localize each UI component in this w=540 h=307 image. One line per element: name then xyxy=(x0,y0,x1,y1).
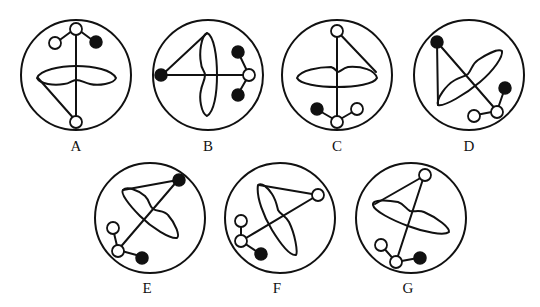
option-d[interactable]: D xyxy=(414,20,524,154)
option-c-diagonal xyxy=(337,31,376,72)
filled-node-icon xyxy=(255,248,267,260)
option-f-diagonal xyxy=(241,195,318,241)
option-d-diagonal xyxy=(437,42,497,111)
open-node-icon xyxy=(49,37,61,49)
option-d-left-edge xyxy=(437,42,438,105)
option-f-label: F xyxy=(273,280,281,296)
option-d-ellipse xyxy=(438,50,502,105)
open-node-icon xyxy=(331,116,343,128)
filled-node-icon xyxy=(414,252,426,264)
option-b[interactable]: B xyxy=(153,20,263,154)
open-node-icon xyxy=(243,69,255,81)
open-node-icon xyxy=(70,116,82,128)
filled-node-icon xyxy=(155,69,167,81)
filled-node-icon xyxy=(136,252,148,264)
option-d-label: D xyxy=(464,138,475,154)
filled-node-icon xyxy=(232,89,244,101)
option-g[interactable]: G xyxy=(356,163,466,296)
filled-node-icon xyxy=(90,36,102,48)
open-node-icon xyxy=(112,245,124,257)
option-c[interactable]: C xyxy=(282,20,392,154)
open-node-icon xyxy=(468,110,480,122)
open-node-icon xyxy=(331,25,343,37)
option-b-label: B xyxy=(203,138,213,154)
option-e[interactable]: E xyxy=(95,163,205,296)
open-node-icon xyxy=(419,169,431,181)
option-f[interactable]: F xyxy=(225,163,335,296)
filled-node-icon xyxy=(173,174,185,186)
open-node-icon xyxy=(107,222,119,234)
option-a-label: A xyxy=(71,138,82,154)
open-node-icon xyxy=(390,256,402,268)
open-node-icon xyxy=(235,215,247,227)
option-a[interactable]: A xyxy=(21,20,131,154)
open-node-icon xyxy=(70,23,82,35)
option-g-label: G xyxy=(403,280,414,296)
open-node-icon xyxy=(491,106,503,118)
open-node-icon xyxy=(312,189,324,201)
option-e-frame xyxy=(95,163,205,273)
filled-node-icon xyxy=(431,36,443,48)
option-e-label: E xyxy=(142,280,151,296)
filled-node-icon xyxy=(311,103,323,115)
filled-node-icon xyxy=(499,82,511,94)
figure-canvas: A B C D xyxy=(0,0,540,307)
option-c-label: C xyxy=(332,138,342,154)
open-node-icon xyxy=(375,239,387,251)
open-node-icon xyxy=(351,103,363,115)
filled-node-icon xyxy=(232,46,244,58)
open-node-icon xyxy=(235,235,247,247)
